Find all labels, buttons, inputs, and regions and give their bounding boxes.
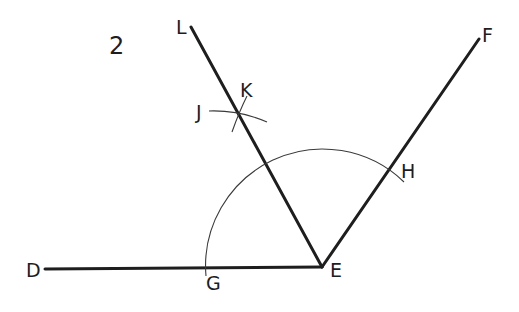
label-F: F [482,24,493,46]
label-J: J [195,101,202,123]
label-G: G [206,272,221,294]
geometry-figure: 2 D E F G H J K L [0,0,519,312]
label-H: H [401,160,415,182]
ray-ED [45,267,322,269]
label-E: E [330,259,342,281]
construction-diagram: 2 D E F G H J K L [0,0,519,312]
figure-number: 2 [109,32,124,60]
label-L: L [176,16,187,38]
label-D: D [26,259,41,281]
label-K: K [240,79,253,101]
ray-EF [322,39,479,267]
arc-GH [206,149,404,276]
